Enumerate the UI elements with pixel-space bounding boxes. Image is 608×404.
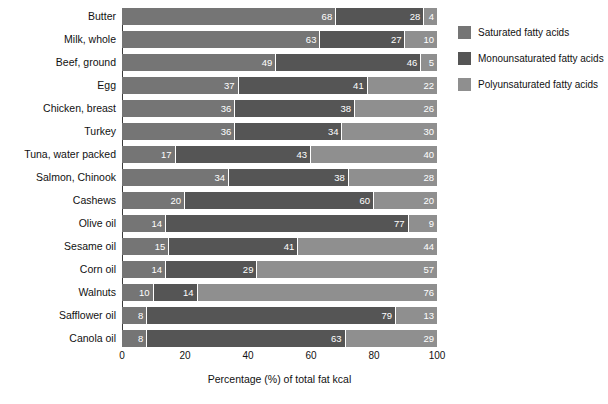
bar-value-label: 49	[262, 58, 276, 68]
bar-segment-poly: 30	[342, 123, 437, 140]
bar-segment-mono: 43	[176, 146, 311, 163]
legend-item: Monounsaturated fatty acids	[458, 52, 604, 65]
bar-row: 174340	[122, 146, 437, 163]
bar-segment-sat: 14	[122, 215, 166, 232]
bar-value-label: 8	[138, 311, 146, 321]
bar-segment-mono: 29	[166, 261, 257, 278]
bar-segment-poly: 4	[424, 8, 437, 25]
bar-value-label: 4	[429, 12, 437, 22]
bar-segment-poly: 29	[346, 330, 437, 347]
bar-segment-mono: 79	[147, 307, 396, 324]
bar-segment-poly: 13	[396, 307, 437, 324]
bar-value-label: 36	[221, 104, 235, 114]
y-axis-category-labels: ButterMilk, wholeBeef, groundEggChicken,…	[0, 8, 116, 353]
bar-value-label: 36	[221, 127, 235, 137]
y-axis-label: Tuna, water packed	[0, 146, 116, 163]
bar-value-label: 10	[423, 35, 437, 45]
bar-row: 101476	[122, 284, 437, 301]
bar-segment-poly: 5	[421, 54, 437, 71]
x-axis-ticks: 020406080100	[122, 346, 437, 366]
bar-segment-mono: 77	[166, 215, 409, 232]
y-axis-label: Salmon, Chinook	[0, 169, 116, 186]
bar-value-label: 40	[423, 150, 437, 160]
bar-segment-mono: 41	[239, 77, 368, 94]
chart-legend: Saturated fatty acidsMonounsaturated fat…	[458, 26, 604, 104]
bar-segment-sat: 37	[122, 77, 239, 94]
bar-row: 363826	[122, 100, 437, 117]
bar-segment-poly: 26	[355, 100, 437, 117]
bar-segment-mono: 38	[229, 169, 349, 186]
legend-label: Monounsaturated fatty acids	[478, 53, 604, 64]
bar-row: 374122	[122, 77, 437, 94]
bar-segment-mono: 34	[235, 123, 342, 140]
bar-segment-sat: 36	[122, 123, 235, 140]
bar-value-label: 29	[243, 265, 257, 275]
bar-segment-poly: 44	[298, 238, 437, 255]
y-axis-label: Butter	[0, 8, 116, 25]
fatty-acid-composition-chart: ButterMilk, wholeBeef, groundEggChicken,…	[0, 0, 608, 404]
bar-value-label: 29	[423, 334, 437, 344]
bar-segment-mono: 46	[276, 54, 421, 71]
bar-value-label: 34	[328, 127, 342, 137]
y-axis-label: Corn oil	[0, 261, 116, 278]
bar-value-label: 14	[152, 265, 166, 275]
y-axis-label: Canola oil	[0, 330, 116, 347]
bar-segment-mono: 60	[185, 192, 374, 209]
bar-value-label: 30	[423, 127, 437, 137]
bar-value-label: 38	[341, 104, 355, 114]
x-axis-tick-label: 20	[179, 350, 190, 361]
bar-value-label: 68	[322, 12, 336, 22]
bar-row: 49465	[122, 54, 437, 71]
bar-segment-sat: 63	[122, 31, 320, 48]
y-axis-label: Chicken, breast	[0, 100, 116, 117]
bar-value-label: 8	[138, 334, 146, 344]
bar-segment-sat: 14	[122, 261, 166, 278]
bar-row: 632710	[122, 31, 437, 48]
bar-value-label: 38	[334, 173, 348, 183]
bar-segment-mono: 63	[147, 330, 345, 347]
bar-value-label: 5	[429, 58, 437, 68]
legend-item: Polyunsaturated fatty acids	[458, 78, 604, 91]
bar-segment-mono: 28	[336, 8, 424, 25]
legend-swatch-sat	[458, 26, 471, 39]
bar-value-label: 13	[423, 311, 437, 321]
bar-segment-poly: 28	[349, 169, 437, 186]
bar-value-label: 15	[155, 242, 169, 252]
bar-segment-mono: 41	[169, 238, 298, 255]
legend-label: Saturated fatty acids	[478, 27, 569, 38]
bar-segment-sat: 20	[122, 192, 185, 209]
bar-value-label: 76	[423, 288, 437, 298]
bar-row: 363430	[122, 123, 437, 140]
plot-area: 6828463271049465374122363826363430174340…	[122, 8, 437, 323]
legend-swatch-mono	[458, 52, 471, 65]
legend-swatch-poly	[458, 78, 471, 91]
bar-value-label: 41	[284, 242, 298, 252]
bar-row: 14779	[122, 215, 437, 232]
bar-segment-sat: 8	[122, 307, 147, 324]
bar-value-label: 57	[423, 265, 437, 275]
bar-value-label: 22	[423, 81, 437, 91]
bar-segment-poly: 20	[374, 192, 437, 209]
bar-segment-mono: 27	[320, 31, 405, 48]
bar-segment-sat: 17	[122, 146, 176, 163]
bar-value-label: 10	[139, 288, 153, 298]
bar-value-label: 28	[410, 12, 424, 22]
bar-value-label: 28	[423, 173, 437, 183]
legend-label: Polyunsaturated fatty acids	[478, 79, 598, 90]
y-axis-label: Safflower oil	[0, 307, 116, 324]
bar-row: 206020	[122, 192, 437, 209]
bar-value-label: 63	[331, 334, 345, 344]
bar-row: 68284	[122, 8, 437, 25]
bar-segment-poly: 9	[409, 215, 437, 232]
bar-segment-sat: 68	[122, 8, 336, 25]
bar-value-label: 63	[306, 35, 320, 45]
bar-value-label: 41	[353, 81, 367, 91]
bar-value-label: 20	[170, 196, 184, 206]
bar-value-label: 27	[391, 35, 405, 45]
x-axis-tick-label: 0	[119, 350, 125, 361]
bar-value-label: 20	[423, 196, 437, 206]
bar-value-label: 14	[152, 219, 166, 229]
y-axis-label: Cashews	[0, 192, 116, 209]
y-axis-label: Turkey	[0, 123, 116, 140]
bar-segment-poly: 10	[405, 31, 437, 48]
